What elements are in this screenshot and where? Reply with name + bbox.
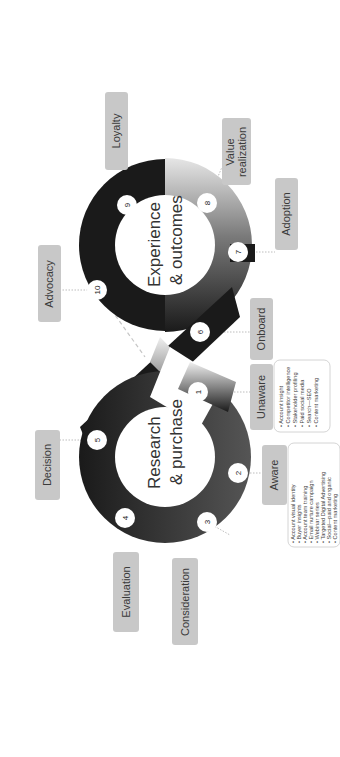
stage-label-consideration[interactable]: Consideration — [172, 558, 198, 645]
stage-label-decision[interactable]: Decision — [35, 430, 60, 500]
svg-text:Onboard: Onboard — [255, 308, 267, 351]
step-9-marker[interactable]: 9 — [117, 195, 137, 215]
step-6-marker[interactable]: 6 — [190, 322, 210, 342]
svg-text:7: 7 — [234, 249, 243, 254]
stage-label-evaluation[interactable]: Evaluation — [113, 552, 139, 632]
step-5-marker[interactable]: 5 — [87, 430, 107, 450]
svg-text:5: 5 — [93, 437, 102, 442]
svg-text:3: 3 — [203, 519, 212, 524]
svg-text:Adoption: Adoption — [280, 192, 292, 235]
svg-text:8: 8 — [203, 200, 212, 205]
step-1-marker[interactable]: 1 — [188, 382, 208, 402]
svg-text:Advocacy: Advocacy — [43, 260, 55, 308]
svg-text:Unaware: Unaware — [255, 375, 267, 419]
svg-text:10: 10 — [93, 285, 102, 294]
customer-journey-diagram: Research & purchase Experience & outcome… — [0, 0, 340, 757]
svg-text:6: 6 — [196, 329, 205, 334]
stage-label-onboard[interactable]: Onboard — [250, 298, 273, 360]
svg-text:1: 1 — [194, 389, 203, 394]
step-7-marker[interactable]: 7 — [228, 242, 248, 262]
stage-label-aware[interactable]: Aware — [262, 445, 287, 505]
svg-text:Decision: Decision — [41, 444, 53, 486]
activity-box-unaware: • Account insight • Competitor intellige… — [274, 360, 330, 432]
step-8-marker[interactable]: 8 — [197, 193, 217, 213]
step-10-marker[interactable]: 10 — [87, 280, 107, 300]
svg-text:Evaluation: Evaluation — [120, 566, 132, 617]
stage-label-value-realization[interactable]: Valuerealization — [222, 118, 251, 185]
activity-box-aware: • Account visual identity • Buyer insigh… — [288, 443, 340, 547]
svg-text:Consideration: Consideration — [179, 568, 191, 636]
stage-label-unaware[interactable]: Unaware — [250, 364, 273, 430]
step-4-marker[interactable]: 4 — [115, 508, 135, 528]
step-2-marker[interactable]: 2 — [228, 463, 248, 483]
svg-text:2: 2 — [234, 470, 243, 475]
stage-label-adoption[interactable]: Adoption — [275, 178, 298, 250]
svg-text:Aware: Aware — [268, 460, 280, 491]
activity-box-consideration — [0, 173, 1, 174]
svg-text:9: 9 — [123, 202, 132, 207]
stage-label-advocacy[interactable]: Advocacy — [38, 245, 61, 322]
svg-text:4: 4 — [121, 515, 130, 520]
svg-text:Loyalty: Loyalty — [110, 113, 122, 148]
stage-label-loyalty[interactable]: Loyalty — [105, 92, 128, 170]
step-3-marker[interactable]: 3 — [197, 512, 217, 532]
